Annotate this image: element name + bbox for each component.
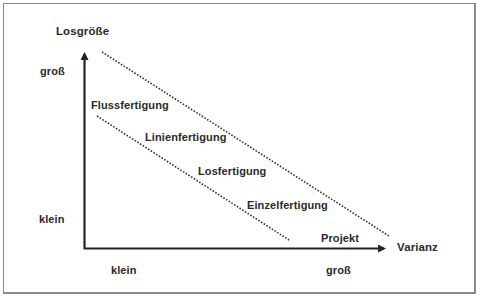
label-linienfertigung: Linienfertigung: [145, 131, 227, 143]
label-losfertigung: Losfertigung: [198, 165, 266, 177]
y-axis-high-label: groß: [40, 65, 65, 77]
label-flussfertigung: Flussfertigung: [91, 99, 169, 111]
y-axis-title: Losgröße: [56, 25, 109, 37]
upper-boundary-dotted-line: [102, 52, 389, 236]
label-projekt: Projekt: [321, 232, 359, 244]
x-axis-low-label: klein: [111, 264, 137, 276]
x-axis-high-label: groß: [326, 264, 351, 276]
x-axis-title: Varianz: [397, 241, 438, 253]
y-axis-low-label: klein: [39, 213, 65, 225]
diagram-canvas: [0, 0, 481, 299]
label-einzelfertigung: Einzelfertigung: [247, 199, 328, 211]
